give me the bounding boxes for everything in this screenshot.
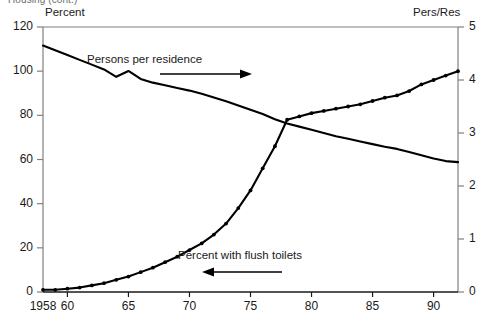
chart-canvas <box>0 0 497 317</box>
x-tick-label: 60 <box>37 299 97 313</box>
left-tick-label: 60 <box>0 152 33 166</box>
right-tick-label: 2 <box>469 178 476 192</box>
right-arrow-icon <box>160 70 252 79</box>
percent-flush-toilets-annotation: Percent with flush toilets <box>178 249 302 261</box>
left-tick-label: 0 <box>0 284 33 298</box>
x-tick-label: 70 <box>159 299 219 313</box>
right-tick-label: 4 <box>469 72 476 86</box>
left-tick-label: 100 <box>0 63 33 77</box>
left-arrow-icon <box>202 268 282 277</box>
x-tick-label: 65 <box>98 299 158 313</box>
left-tick-label: 40 <box>0 196 33 210</box>
left-tick-label: 80 <box>0 107 33 121</box>
left-tick-label: 120 <box>0 19 33 33</box>
persons-per-residence-annotation: Persons per residence <box>87 53 202 65</box>
x-tick-label: 80 <box>282 299 342 313</box>
right-axis-ticks <box>458 27 464 292</box>
x-tick-label: 75 <box>221 299 281 313</box>
x-axis-ticks <box>67 292 433 297</box>
right-tick-label: 5 <box>469 19 476 33</box>
x-tick-label: 90 <box>404 299 464 313</box>
right-tick-label: 1 <box>469 231 476 245</box>
chart-figure: Housing (cont.) Percent Pers/Res Persons… <box>0 0 497 317</box>
left-tick-label: 20 <box>0 240 33 254</box>
right-tick-label: 0 <box>469 284 476 298</box>
x-tick-label: 85 <box>343 299 403 313</box>
left-axis-ticks <box>37 27 43 292</box>
right-tick-label: 3 <box>469 125 476 139</box>
